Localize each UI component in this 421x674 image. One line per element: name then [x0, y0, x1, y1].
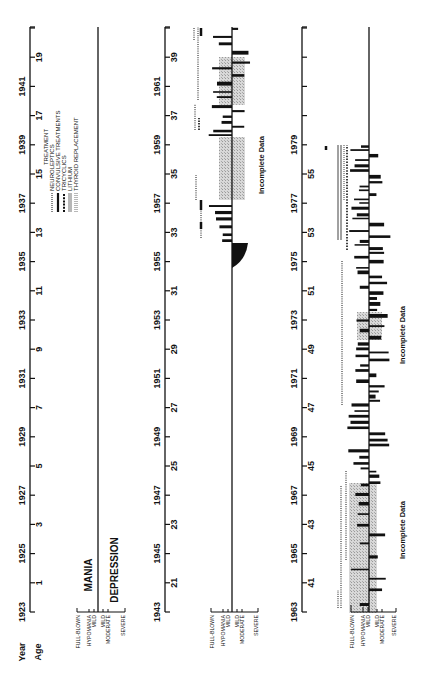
legend-thyroid: THYROID REPLACEMENT [73, 117, 79, 191]
panel-2: 1943194519471949195119531955195719591961… [152, 27, 266, 648]
age-axis-label: Age [33, 643, 43, 660]
year-label: 1935 [17, 252, 27, 272]
year-label: 1975 [289, 252, 299, 272]
severity-severe: SEVERE [120, 614, 126, 636]
panel-1: 1923192519271929193119331935193719391941… [17, 27, 126, 662]
treatment-marks [326, 145, 347, 608]
year-labels: 196319651967196919711973197519771979 [289, 135, 299, 622]
year-label: 1939 [17, 135, 27, 155]
age-label: 19 [34, 52, 44, 62]
panel-3: 196319651967196919711973197519771979 414… [289, 27, 407, 648]
year-label: 1971 [289, 368, 299, 388]
year-label: 1979 [289, 135, 299, 155]
year-label: 1951 [152, 368, 162, 388]
severity-moderate: MODERATE [379, 614, 385, 644]
year-label: 1959 [152, 135, 162, 155]
year-label: 1953 [152, 310, 162, 330]
mania-label: MANIA [83, 559, 94, 592]
age-label: 49 [306, 344, 316, 354]
age-label: 35 [169, 169, 179, 179]
severity-full-blown: FULL-BLOWN [209, 615, 215, 649]
year-label: 1937 [17, 193, 27, 213]
year-label: 1957 [152, 193, 162, 213]
year-label: 1933 [17, 310, 27, 330]
year-label: 1947 [152, 485, 162, 505]
depression-label: DEPRESSION [109, 537, 120, 603]
year-label: 1929 [17, 427, 27, 447]
year-label: 1961 [152, 76, 162, 96]
year-label: 1923 [17, 602, 27, 622]
age-label: 47 [306, 403, 316, 413]
severity-severe: SEVERE [253, 614, 259, 636]
age-label: 21 [169, 578, 179, 588]
year-label: 1967 [289, 485, 299, 505]
age-label: 23 [169, 519, 179, 529]
year-label: 1973 [289, 310, 299, 330]
severity-moderate: MODERATE [105, 614, 111, 644]
age-label: 17 [34, 111, 44, 121]
incomplete-data-label: Incomplete Data [257, 135, 266, 194]
year-label: 1945 [152, 544, 162, 564]
age-label: 27 [169, 403, 179, 413]
incomplete-data-label: Incomplete Data [398, 305, 407, 364]
severity-moderate: MODERATE [239, 614, 245, 644]
incomplete-data-label: Incomplete Data [398, 500, 407, 559]
severity-scale: FULL-BLOWN HYPOMANIA MILD MILD MODERATE … [209, 608, 259, 648]
age-label: 29 [169, 344, 179, 354]
age-label: 13 [34, 227, 44, 237]
age-label: 31 [169, 286, 179, 296]
severity-full-blown: FULL-BLOWN [75, 615, 81, 649]
year-labels: 1923192519271929193119331935193719391941 [17, 76, 27, 622]
age-label: 15 [34, 169, 44, 179]
severity-mild-mania: MILD [225, 615, 231, 628]
treatment-legend: TREATMENT NEUROLEPTICS CONVULSIVE TREATM… [43, 111, 79, 212]
severity-scale: FULL-BLOWN HYPOMANIA MILD MILD MODERATE … [349, 605, 397, 648]
age-label: 5 [34, 463, 44, 468]
year-label: 1977 [289, 193, 299, 213]
year-label: 1963 [289, 602, 299, 622]
age-label: 25 [169, 461, 179, 471]
year-label: 1927 [17, 485, 27, 505]
life-chart: 1923192519271929193119331935193719391941… [0, 0, 421, 674]
age-labels: 21232527293133353739 [169, 52, 179, 588]
age-label: 55 [306, 169, 316, 179]
severity-mild-mania: MILD [91, 615, 97, 628]
treatment-marks [194, 27, 201, 238]
age-labels: 4143454749515355 [306, 169, 316, 588]
age-label: 43 [306, 519, 316, 529]
year-label: 1969 [289, 427, 299, 447]
year-label: 1955 [152, 252, 162, 272]
severity-full-blown: FULL-BLOWN [349, 615, 355, 649]
severity-mild-mania: MILD [365, 615, 371, 628]
age-label: 37 [169, 111, 179, 121]
year-label: 1965 [289, 544, 299, 564]
year-labels: 1943194519471949195119531955195719591961 [152, 76, 162, 622]
year-axis-label: Year [17, 642, 27, 662]
year-label: 1931 [17, 368, 27, 388]
age-label: 33 [169, 227, 179, 237]
year-label: 1943 [152, 602, 162, 622]
age-label: 7 [34, 405, 44, 410]
age-label: 51 [306, 286, 316, 296]
age-label: 9 [34, 347, 44, 352]
age-label: 11 [34, 286, 44, 296]
year-label: 1925 [17, 544, 27, 564]
age-label: 1 [34, 580, 44, 585]
year-label: 1941 [17, 76, 27, 96]
severity-scale: FULL-BLOWN HYPOMANIA MILD MILD MODERATE … [75, 608, 126, 648]
age-label: 53 [306, 227, 316, 237]
severity-severe: SEVERE [391, 614, 397, 636]
age-label: 39 [169, 52, 179, 62]
year-label: 1949 [152, 427, 162, 447]
age-label: 3 [34, 522, 44, 527]
age-label: 45 [306, 461, 316, 471]
age-label: 41 [306, 578, 316, 588]
